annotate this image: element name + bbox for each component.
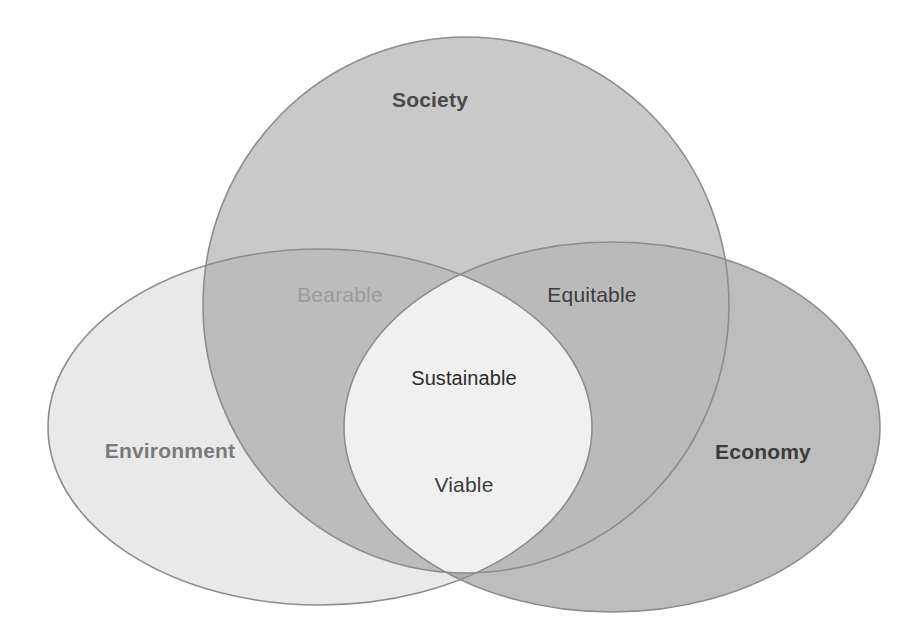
venn-diagram: Society Environment Economy Bearable Equ…	[0, 0, 913, 640]
label-viable: Viable	[434, 473, 493, 496]
label-bearable: Bearable	[297, 283, 383, 306]
label-sustainable: Sustainable	[411, 367, 517, 389]
label-environment: Environment	[105, 439, 236, 462]
label-economy: Economy	[715, 440, 811, 463]
label-equitable: Equitable	[547, 283, 636, 306]
label-society: Society	[392, 88, 468, 111]
